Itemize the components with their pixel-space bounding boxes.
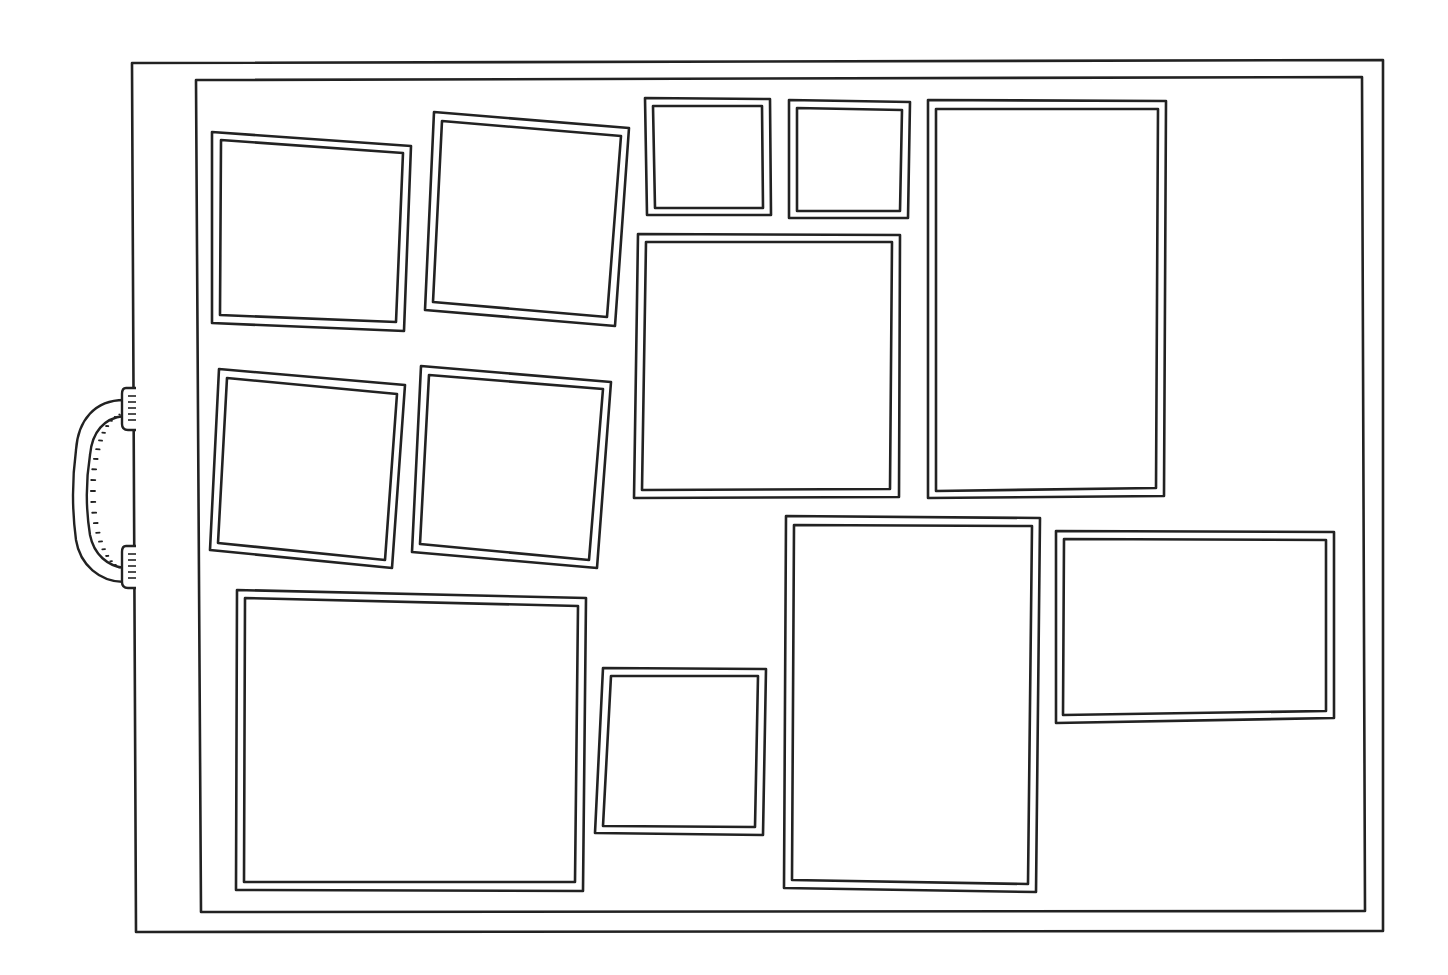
frame-12-inner (603, 676, 758, 827)
frame-8-outer (412, 366, 611, 568)
case-outer-edge (132, 60, 1383, 932)
picture-frames (210, 98, 1334, 892)
frame-2-inner (433, 121, 621, 317)
frame-2 (425, 112, 629, 326)
case-body (132, 60, 1383, 932)
frame-3-inner (653, 106, 763, 208)
frame-4-inner (797, 108, 902, 211)
frame-10-outer (1056, 531, 1334, 723)
frame-1-outer (212, 132, 411, 331)
frame-9 (784, 516, 1040, 892)
frame-9-inner (792, 525, 1032, 884)
frame-6-inner (642, 242, 892, 490)
frame-1-inner (220, 140, 403, 322)
frame-7-outer (210, 369, 405, 568)
frame-1 (212, 132, 411, 331)
case-inner-edge (196, 77, 1365, 912)
frame-11-inner (244, 598, 578, 882)
frame-5 (928, 100, 1166, 498)
frame-2-outer (425, 112, 629, 326)
portfolio-case-illustration (0, 0, 1448, 975)
frame-5-outer (928, 100, 1166, 498)
frame-11-outer (236, 590, 586, 891)
frame-5-inner (936, 109, 1158, 491)
frame-9-outer (784, 516, 1040, 892)
frame-3-outer (645, 98, 771, 215)
frame-7 (210, 369, 405, 568)
frame-11 (236, 590, 586, 891)
frame-8-inner (420, 375, 603, 560)
frame-8 (412, 366, 611, 568)
frame-4-outer (789, 100, 910, 218)
frame-10 (1056, 531, 1334, 723)
frame-10-inner (1063, 539, 1326, 715)
frame-6 (634, 234, 900, 498)
frame-6-outer (634, 234, 900, 498)
frame-7-inner (218, 378, 397, 560)
frame-12-outer (595, 668, 766, 835)
frame-4 (789, 100, 910, 218)
frame-12 (595, 668, 766, 835)
case-handle-icon (73, 388, 136, 588)
frame-3 (645, 98, 771, 215)
